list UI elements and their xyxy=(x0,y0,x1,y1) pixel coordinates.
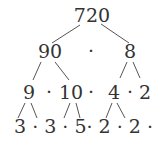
multiply-dot: · xyxy=(46,80,52,102)
node-90: 90 xyxy=(38,40,62,62)
node-2: 2 xyxy=(139,81,151,103)
root-node: 720 xyxy=(74,4,110,26)
node-8: 8 xyxy=(124,40,136,62)
edge-8-2 xyxy=(133,62,140,78)
multiply-dot: · xyxy=(88,39,94,61)
edge-90-10 xyxy=(55,62,69,80)
node-4: 4 xyxy=(108,81,120,103)
node-9: 9 xyxy=(23,81,35,103)
factor-tree: 720 90 · 8 9 · 10 · 4 · 2 3 · 3 · 5· 2 ·… xyxy=(0,0,154,142)
edge-90-9 xyxy=(33,62,41,80)
prime-factorization: 3 · 3 · 5· 2 · 2 · 2 xyxy=(14,115,154,137)
node-10: 10 xyxy=(59,81,83,103)
multiply-dot: · xyxy=(88,80,94,102)
multiply-dot: · xyxy=(127,80,133,102)
edge-8-4 xyxy=(120,62,127,78)
